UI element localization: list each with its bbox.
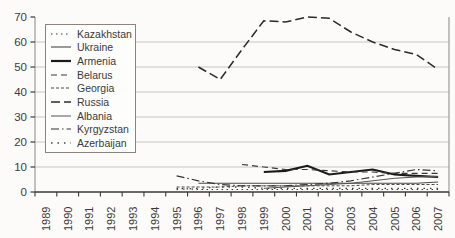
legend-label: Albania — [77, 111, 112, 122]
x-axis-tick-label: 2002 — [323, 207, 335, 231]
albania-line — [264, 176, 438, 188]
x-axis-tick-label: 1989 — [40, 207, 52, 231]
legend-label: Russia — [77, 97, 109, 108]
x-axis-tick-label: 1992 — [105, 207, 117, 231]
kazakhstan-line-swatch — [50, 29, 72, 39]
x-axis-tick-label: 1990 — [62, 207, 74, 231]
russia-line-swatch — [50, 97, 72, 107]
legend-item-albania: Albania — [50, 110, 135, 122]
x-axis-tick-label: 2001 — [301, 207, 313, 231]
legend-item-ukraine: Ukraine — [50, 41, 135, 53]
x-axis-tick-label: 2004 — [367, 207, 379, 231]
x-axis-tick-label: 2007 — [432, 207, 444, 231]
legend-item-kyrgyzstan: Kyrgyzstan — [50, 123, 135, 135]
data-series — [177, 17, 439, 190]
legend-item-belarus: Belarus — [50, 69, 135, 81]
ukraine-line-swatch — [50, 42, 72, 52]
y-axis-tick-label: 20 — [14, 136, 27, 148]
legend-label: Belarus — [77, 70, 113, 81]
belarus-line-swatch — [50, 70, 72, 80]
legend-label: Kazakhstan — [77, 29, 132, 40]
y-axis-tick-label: 60 — [14, 36, 27, 48]
albania-line-swatch — [50, 111, 72, 121]
x-axis-tick-label: 1991 — [83, 207, 95, 231]
legend-label: Ukraine — [77, 42, 113, 53]
x-axis-tick-label: 1996 — [192, 207, 204, 231]
x-axis-tick-label: 1999 — [258, 207, 270, 231]
legend: Kazakhstan Ukraine Armenia Belarus Georg… — [45, 24, 136, 153]
ukraine-line — [198, 182, 438, 183]
legend-item-russia: Russia — [50, 96, 135, 108]
x-axis-tick-label: 2005 — [389, 207, 401, 231]
x-axis-tick-label: 2000 — [280, 207, 292, 231]
legend-label: Georgia — [77, 83, 114, 94]
x-axis-tick-label: 2003 — [345, 207, 357, 231]
y-axis-tick-label: 30 — [14, 111, 27, 123]
y-axis-tick-label: 40 — [14, 86, 27, 98]
legend-label: Azerbaijan — [77, 138, 127, 149]
armenia-line-swatch — [50, 56, 72, 66]
x-axis-tick-label: 1993 — [127, 207, 139, 231]
x-axis-tick-label: 1997 — [214, 207, 226, 231]
russia-line — [198, 17, 438, 80]
legend-item-georgia: Georgia — [50, 82, 135, 94]
azerbaijan-line-swatch — [50, 138, 72, 148]
y-axis-tick-label: 70 — [14, 11, 27, 23]
georgia-line-swatch — [50, 83, 72, 93]
legend-item-kazakhstan: Kazakhstan — [50, 28, 135, 40]
y-axis-tick-label: 50 — [14, 61, 27, 73]
legend-label: Armenia — [77, 56, 116, 67]
x-axis-tick-label: 1994 — [149, 207, 161, 231]
x-axis-tick-label: 2006 — [410, 207, 422, 231]
kyrgyzstan-line-swatch — [50, 124, 72, 134]
legend-item-azerbaijan: Azerbaijan — [50, 137, 135, 149]
legend-label: Kyrgyzstan — [77, 124, 129, 135]
y-axis-tick-label: 10 — [14, 161, 27, 173]
x-axis-tick-label: 1998 — [236, 207, 248, 231]
chart-figure: 0102030405060701989199019911992199319941… — [0, 0, 455, 238]
y-axis-tick-label: 0 — [21, 186, 27, 198]
x-axis-tick-label: 1995 — [171, 207, 183, 231]
legend-item-armenia: Armenia — [50, 55, 135, 67]
